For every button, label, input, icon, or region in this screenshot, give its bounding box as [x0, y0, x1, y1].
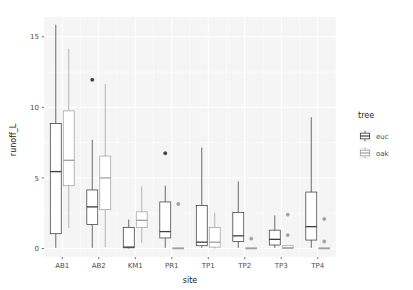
box-rect: [233, 213, 244, 242]
x-axis-tick-label: TP3: [274, 262, 288, 270]
y-axis-tick-label: 15: [30, 33, 39, 41]
box-rect: [123, 227, 134, 247]
x-axis-tick-label: TP1: [201, 262, 215, 270]
outlier-point: [286, 233, 289, 236]
outlier-point: [323, 240, 326, 243]
box-rect: [209, 227, 220, 247]
x-axis-tick-label: AB1: [55, 262, 69, 270]
boxplot-figure: 051015 AB1AB2KM1PR1TP1TP2TP3TP4 treeeuco…: [0, 0, 413, 290]
outlier-point: [286, 213, 289, 216]
legend-item-label: euc: [376, 133, 389, 141]
chart-canvas: 051015 AB1AB2KM1PR1TP1TP2TP3TP4 treeeuco…: [0, 0, 413, 290]
legend-item-label: oak: [376, 150, 390, 158]
outlier-point: [250, 237, 253, 240]
box-rect: [100, 156, 111, 210]
outlier-point: [177, 202, 180, 205]
box-rect: [306, 192, 317, 240]
x-axis-title: site: [183, 276, 198, 285]
y-axis-tick-label: 0: [35, 245, 39, 253]
y-axis-tick-label: 5: [35, 175, 39, 183]
outlier-point: [323, 217, 326, 220]
box-rect: [63, 111, 74, 186]
x-axis-tick-label: TP4: [310, 262, 324, 270]
box-rect: [196, 205, 207, 245]
box-rect: [160, 202, 171, 238]
legend-title: tree: [358, 111, 374, 120]
x-axis-tick-label: AB2: [92, 262, 106, 270]
x-axis-tick-label: KM1: [128, 262, 143, 270]
box-rect: [136, 212, 147, 228]
outlier-point: [164, 152, 167, 155]
x-axis-tick-label: PR1: [165, 262, 179, 270]
x-axis-tick-label: TP2: [237, 262, 251, 270]
outlier-point: [91, 78, 94, 81]
y-axis-title: runoff_L: [9, 123, 18, 156]
box-rect: [50, 124, 61, 234]
y-axis-tick-label: 10: [30, 104, 39, 112]
box-rect: [269, 230, 280, 245]
